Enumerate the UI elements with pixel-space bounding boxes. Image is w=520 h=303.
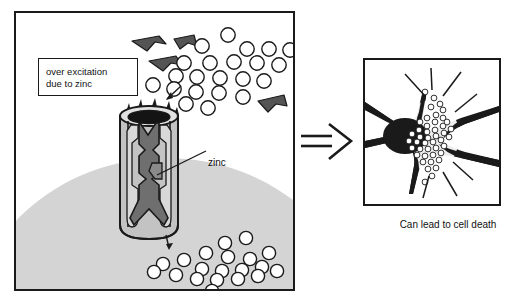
ion-circle (177, 253, 190, 266)
ion-circle (240, 42, 254, 56)
soma-ion-circle (437, 101, 443, 107)
ion-circle (239, 231, 252, 244)
ion-circle (236, 90, 250, 104)
soma-ion-circle (436, 157, 442, 163)
ion-circle (199, 246, 212, 259)
soma-ion-circle (432, 119, 438, 125)
soma-ion-circle (440, 107, 446, 113)
soma-ion-circle (424, 129, 430, 135)
soma-ion-circle (433, 165, 439, 171)
caption-box: over excitation due to zinc (38, 58, 138, 96)
soma-ion-circle (428, 159, 434, 165)
ion-circle (201, 101, 215, 115)
soma-ion-circle (409, 145, 415, 151)
ion-circle (169, 268, 182, 281)
ion-circle (190, 272, 203, 285)
soma-ion-circle (428, 104, 434, 110)
ion-channel-scene (16, 13, 293, 289)
ion-circle (227, 55, 241, 69)
soma-ion-circle (444, 119, 450, 125)
figure-root: over excitation due to zinc zinc (0, 0, 520, 303)
soma-ion-circle (429, 173, 435, 179)
ion-circle (262, 246, 275, 259)
soma-ion-circle (416, 127, 422, 133)
caption-line-1: over excitation (46, 66, 107, 77)
zinc-label: zinc (208, 157, 226, 168)
ion-circle (250, 56, 264, 70)
soma-ion-circle (422, 140, 428, 146)
ion-circle (283, 43, 293, 57)
left-panel: over excitation due to zinc zinc (14, 11, 295, 291)
soma-ion-circle (417, 146, 423, 152)
soma-ion-circle (409, 131, 415, 137)
ion-circle (221, 250, 234, 263)
ion-circle (167, 82, 181, 96)
ion-circle (213, 71, 227, 85)
ion-circle (169, 69, 183, 83)
double-arrow-right-icon (299, 118, 355, 166)
ion-circle (179, 97, 193, 111)
ion-circle (257, 74, 271, 88)
ion-circle (262, 42, 276, 56)
ion-circle (146, 78, 160, 92)
soma-ion-circle (433, 145, 439, 151)
soma-ion-circle (441, 143, 447, 149)
soma-ion-circle (438, 137, 444, 143)
ion-circle (251, 269, 264, 282)
soma-ion-circle (424, 123, 430, 129)
ion-circle (221, 28, 235, 42)
soma-ion-circle (417, 119, 423, 125)
ion-circle (218, 236, 231, 249)
cell-death-caption: Can lead to cell death (378, 219, 518, 231)
soma-ion-circle (433, 133, 439, 139)
soma-ion-circle (432, 127, 438, 133)
soma-ion-circle (425, 146, 431, 152)
ion-circle (147, 265, 160, 278)
soma-ion-circle (441, 130, 447, 136)
soma-ion-circle (430, 139, 436, 145)
soma-ion-circle (448, 126, 454, 132)
soma-ion-circle (438, 150, 444, 156)
caption-line-2: due to zinc (46, 78, 92, 89)
dying-neuron-scene (365, 60, 499, 204)
soma-ion-circle (425, 166, 431, 172)
soma-ion-circle (430, 152, 436, 158)
soma-ion-circle (433, 112, 439, 118)
ion-circle (195, 39, 209, 53)
soma-ion-circle (406, 138, 412, 144)
ion-circle (231, 272, 244, 285)
soma-ion-circle (431, 95, 437, 101)
soma-ion-circle (414, 152, 420, 158)
ion-circle (236, 72, 250, 86)
ion-circle (203, 56, 217, 70)
ion-circle (177, 56, 191, 70)
soma-ion-circle (414, 139, 420, 145)
ion-circle (272, 58, 286, 72)
soma-ion-circle (420, 159, 426, 165)
ion-circle (190, 70, 204, 84)
soma-ion-circle (424, 115, 430, 121)
ion-circle (212, 86, 226, 100)
right-panel (363, 58, 501, 206)
ion-circle (270, 264, 283, 277)
ion-circle (189, 85, 203, 99)
soma-ion-circle (422, 153, 428, 159)
soma-ion-circle (446, 134, 452, 140)
